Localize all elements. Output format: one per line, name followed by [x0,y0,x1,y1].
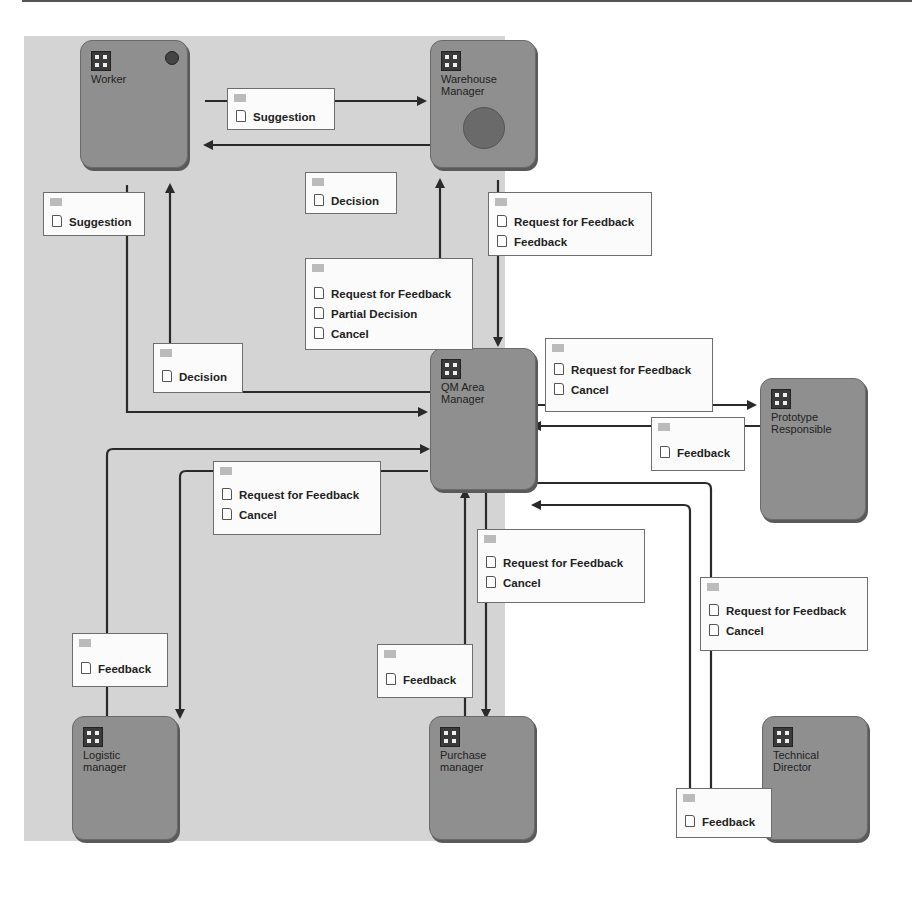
envelope-icon [312,178,324,186]
message-label: Feedback [677,447,730,459]
message-label: Cancel [726,625,764,637]
message-box[interactable]: Feedback [377,644,473,698]
lane-qm-area-manager[interactable]: QM Area Manager [430,348,536,490]
end-circle-icon [463,107,505,149]
message-box[interactable]: Request for Feedback Partial Decision Ca… [305,258,473,350]
envelope-icon [79,639,91,647]
message-box[interactable]: Feedback [651,417,745,471]
envelope-icon [484,535,496,543]
start-ball-icon [165,51,179,65]
message-label: Request for Feedback [571,364,691,376]
lane-prototype-responsible[interactable]: Prototype Responsible [760,378,866,520]
document-icon [685,815,695,827]
envelope-icon [220,467,232,475]
envelope-icon [384,650,396,658]
node-label: Warehouse Manager [441,73,521,97]
document-icon [486,576,496,588]
message-box[interactable]: Request for Feedback Cancel [477,529,645,603]
envelope-icon [552,344,564,352]
envelope-icon [495,198,507,206]
node-label: Purchase manager [440,749,520,773]
document-icon [314,307,324,319]
document-icon [314,327,324,339]
message-label: Request for Feedback [239,489,359,501]
message-box[interactable]: Request for Feedback Cancel [545,338,713,412]
message-box[interactable]: Request for Feedback Feedback [488,192,652,256]
envelope-icon [50,198,62,206]
message-box[interactable]: Suggestion [43,192,145,236]
role-icon [773,727,793,747]
document-icon [386,673,396,685]
envelope-icon [312,264,324,272]
message-box[interactable]: Decision [305,172,397,214]
document-icon [709,624,719,636]
document-icon [162,370,172,382]
node-label: Prototype Responsible [771,411,851,435]
message-label: Feedback [403,674,456,686]
document-icon [497,215,507,227]
message-label: Request for Feedback [503,557,623,569]
process-diagram-canvas: Worker Warehouse Manager QM Area Manager… [24,36,505,841]
document-icon [236,110,246,122]
page-rule [22,0,912,2]
document-icon [554,383,564,395]
document-icon [81,662,91,674]
message-label: Request for Feedback [726,605,846,617]
envelope-icon [234,94,246,102]
role-icon [441,51,461,71]
message-label: Cancel [239,509,277,521]
message-box[interactable]: Feedback [72,633,168,687]
message-box[interactable]: Feedback [676,788,772,838]
envelope-icon [658,423,670,431]
envelope-icon [160,349,172,357]
message-box[interactable]: Request for Feedback Cancel [213,461,381,535]
envelope-icon [707,583,719,591]
lane-logistic-manager[interactable]: Logistic manager [72,716,178,840]
lane-warehouse-manager[interactable]: Warehouse Manager [430,40,536,168]
message-box[interactable]: Request for Feedback Cancel [700,577,868,651]
message-label: Suggestion [253,111,316,123]
document-icon [660,446,670,458]
envelope-icon [683,794,695,802]
document-icon [222,488,232,500]
document-icon [486,556,496,568]
role-icon [91,51,111,71]
node-label: Worker [91,73,171,85]
message-label: Cancel [571,384,609,396]
document-icon [709,604,719,616]
node-label: QM Area Manager [441,381,521,405]
message-label: Decision [331,195,379,207]
message-label: Cancel [503,577,541,589]
role-icon [440,727,460,747]
message-label: Feedback [514,236,567,248]
message-label: Request for Feedback [514,216,634,228]
message-label: Suggestion [69,216,132,228]
message-label: Partial Decision [331,308,417,320]
document-icon [52,215,62,227]
message-label: Cancel [331,328,369,340]
role-icon [83,727,103,747]
document-icon [222,508,232,520]
message-box[interactable]: Suggestion [227,88,335,130]
message-box[interactable]: Decision [153,343,243,393]
document-icon [314,287,324,299]
document-icon [497,235,507,247]
lane-worker[interactable]: Worker [80,40,188,168]
lane-technical-director[interactable]: Technical Director [762,716,868,840]
message-label: Feedback [98,663,151,675]
role-icon [441,359,461,379]
document-icon [314,194,324,206]
message-label: Decision [179,371,227,383]
node-label: Logistic manager [83,749,163,773]
document-icon [554,363,564,375]
lane-purchase-manager[interactable]: Purchase manager [429,716,535,840]
role-icon [771,389,791,409]
message-label: Request for Feedback [331,288,451,300]
message-label: Feedback [702,816,755,828]
node-label: Technical Director [773,749,853,773]
